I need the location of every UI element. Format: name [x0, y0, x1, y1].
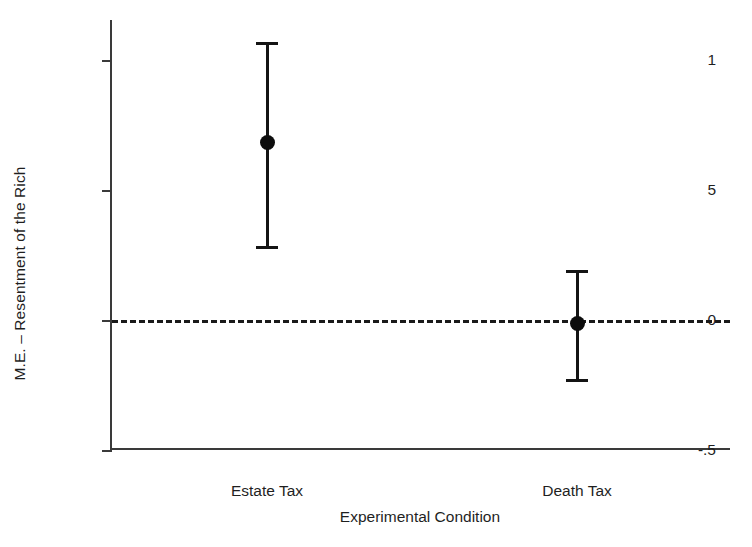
- y-tick-label: 5: [707, 181, 716, 199]
- errorbar-cap-upper: [566, 270, 588, 273]
- zero-reference-line: [112, 320, 730, 323]
- x-tick-label: Death Tax: [542, 482, 612, 500]
- y-tick-mark: [102, 450, 112, 452]
- y-tick-mark: [102, 60, 112, 62]
- x-axis-title: Experimental Condition: [110, 508, 730, 526]
- y-tick-label: 1: [707, 51, 716, 69]
- x-tick-label: Estate Tax: [231, 482, 303, 500]
- plot-area: 150-.5 Estate TaxDeath Tax: [110, 20, 730, 450]
- errorbar-cap-lower: [566, 379, 588, 382]
- errorbar-cap-upper: [256, 42, 278, 45]
- data-point-marker: [570, 316, 585, 331]
- errorbar-cap-lower: [256, 246, 278, 249]
- y-tick-mark: [102, 190, 112, 192]
- marginal-effects-plot: M.E. – Resentment of the Rich 150-.5 Est…: [0, 0, 752, 547]
- data-point-marker: [260, 135, 275, 150]
- y-tick-mark: [102, 320, 112, 322]
- y-tick-label: -.5: [698, 441, 716, 459]
- y-axis-title: M.E. – Resentment of the Rich: [0, 0, 40, 547]
